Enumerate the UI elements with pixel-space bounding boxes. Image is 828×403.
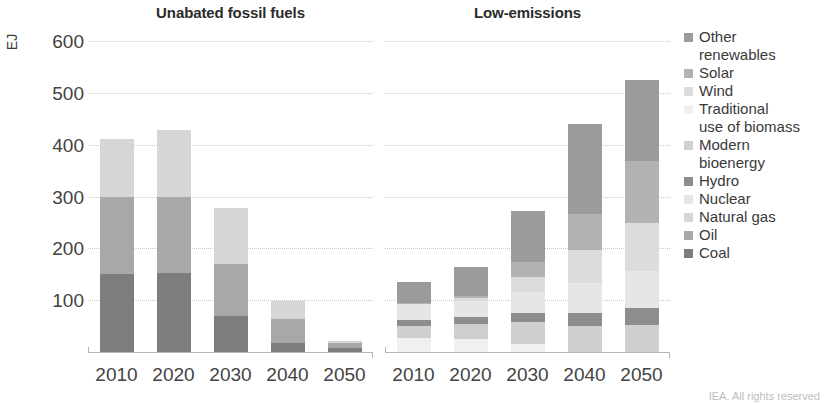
bar-segment (100, 139, 134, 196)
legend-item-label: Nuclear (699, 190, 751, 208)
legend-item-label: Other renewables (699, 28, 776, 64)
x-axis-tick-label: 2040 (266, 365, 308, 384)
y-axis-label-text: EJ (0, 32, 24, 52)
bar-segment (214, 316, 248, 352)
bar-segment (625, 80, 659, 161)
bar-segment (454, 317, 488, 324)
bar-segment (397, 303, 431, 304)
panel-title: Low-emissions (385, 4, 670, 21)
chart-figure: EJ 600500400300200100 Unabated fossil fu… (0, 0, 828, 403)
legend-swatch-icon (684, 249, 693, 258)
legend-swatch-icon (684, 105, 693, 114)
y-axis-tick-label: 600 (52, 32, 84, 51)
bar-segment (454, 296, 488, 299)
bar-segment (454, 267, 488, 296)
bar-2040 (271, 301, 305, 352)
legend-item[interactable]: Wind (684, 82, 828, 100)
bar-segment (454, 339, 488, 352)
y-axis-tick-label: 500 (52, 83, 84, 102)
bar-segment (397, 304, 431, 320)
bar-2030 (511, 211, 545, 352)
bar-segment (568, 214, 602, 250)
bar-segment (625, 223, 659, 271)
y-axis-label: EJ (2, 30, 22, 54)
bar-segment (625, 271, 659, 308)
bar-segment (271, 343, 305, 352)
bar-segment (397, 282, 431, 303)
legend-item[interactable]: Modern bioenergy (684, 136, 828, 172)
legend-item[interactable]: Solar (684, 64, 828, 82)
y-axis-tick-label: 400 (52, 135, 84, 154)
bar-segment (328, 343, 362, 348)
legend-item[interactable]: Other renewables (684, 28, 828, 64)
bar-segment (454, 301, 488, 317)
bar-segment (511, 322, 545, 344)
bar-2010 (397, 282, 431, 352)
legend-item-label: Solar (699, 64, 734, 82)
bar-segment (568, 124, 602, 214)
bar-segment (397, 303, 431, 304)
gridline (385, 41, 670, 42)
bar-segment (511, 313, 545, 322)
bar-segment (568, 283, 602, 313)
x-axis-tick-label: 2020 (449, 365, 491, 384)
x-axis-tick-label: 2050 (620, 365, 662, 384)
bar-segment (100, 274, 134, 352)
panel-unabated-fossil-fuels: Unabated fossil fuels 201020202030204020… (88, 0, 373, 403)
y-axis-ticks: 600500400300200100 (22, 0, 88, 403)
bar-2050 (328, 341, 362, 352)
panel-low-emissions: Low-emissions 20102020203020402050 (385, 0, 670, 403)
x-axis-tick-label: 2020 (152, 365, 194, 384)
bar-segment (397, 338, 431, 353)
legend-item[interactable]: Oil (684, 226, 828, 244)
x-axis-tick-label: 2030 (506, 365, 548, 384)
legend-swatch-icon (684, 33, 693, 42)
bar-segment (625, 308, 659, 325)
bar-segment (157, 130, 191, 196)
legend-item[interactable]: Traditional use of biomass (684, 100, 828, 136)
bar-2010 (100, 139, 134, 352)
x-axis-tick-label: 2050 (323, 365, 365, 384)
copyright-notice: IEA. All rights reserved (709, 390, 820, 402)
bar-segment (157, 273, 191, 352)
bar-segment (568, 313, 602, 326)
legend-swatch-icon (684, 87, 693, 96)
bar-segment (511, 292, 545, 313)
x-axis-tick-label: 2030 (209, 365, 251, 384)
bar-2040 (568, 124, 602, 352)
legend-item-label: Wind (699, 82, 733, 100)
bar-segment (454, 324, 488, 339)
legend-swatch-icon (684, 177, 693, 186)
bar-segment (568, 250, 602, 282)
bar-segment (511, 211, 545, 262)
axis-end-tick (669, 352, 670, 358)
gridline (88, 41, 373, 42)
bar-segment (328, 341, 362, 343)
legend-item[interactable]: Hydro (684, 172, 828, 190)
bar-2050 (625, 80, 659, 352)
bar-segment (328, 348, 362, 352)
legend-item[interactable]: Natural gas (684, 208, 828, 226)
legend-item[interactable]: Coal (684, 244, 828, 262)
bar-segment (157, 197, 191, 274)
x-axis-tick-label: 2010 (95, 365, 137, 384)
legend-item-label: Coal (699, 244, 730, 262)
bar-segment (454, 298, 488, 301)
bar-segment (214, 264, 248, 316)
bar-segment (568, 326, 602, 352)
y-axis-tick-label: 300 (52, 187, 84, 206)
bar-segment (397, 326, 431, 337)
bar-segment (397, 320, 431, 326)
bar-2020 (157, 130, 191, 352)
bar-segment (214, 208, 248, 264)
bar-segment (511, 344, 545, 352)
legend-item[interactable]: Nuclear (684, 190, 828, 208)
legend-swatch-icon (684, 213, 693, 222)
axis-end-tick (372, 352, 373, 358)
x-axis-line (385, 352, 670, 353)
bar-2030 (214, 208, 248, 352)
axis-start-tick (88, 347, 89, 353)
bar-segment (625, 325, 659, 352)
legend-item-label: Hydro (699, 172, 739, 190)
gridline (88, 93, 373, 94)
